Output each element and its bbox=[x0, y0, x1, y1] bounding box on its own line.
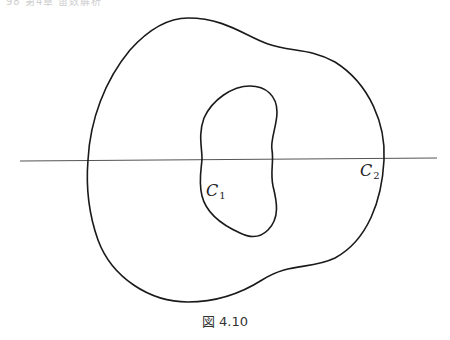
figure-caption: 図 4.10 bbox=[0, 311, 450, 330]
label-c1: C1 bbox=[206, 183, 226, 201]
label-c2: C2 bbox=[360, 163, 380, 181]
label-c2-subscript: 2 bbox=[373, 170, 379, 181]
label-c1-subscript: 1 bbox=[219, 190, 225, 201]
real-axis-line bbox=[20, 158, 437, 161]
inner-curve-c1 bbox=[200, 86, 277, 236]
label-c1-letter: C bbox=[206, 181, 218, 200]
label-c2-letter: C bbox=[360, 161, 372, 180]
contour-figure bbox=[0, 0, 450, 340]
